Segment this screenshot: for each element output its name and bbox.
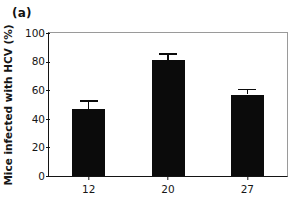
- panel-label: (a): [12, 6, 32, 20]
- x-tick-12: 12: [82, 176, 95, 195]
- y-axis-title-container: Mice infected with HCV (%): [0, 32, 16, 178]
- y-tick-mark: [46, 90, 50, 91]
- x-tick-label: 27: [241, 183, 254, 195]
- figure-panel-a: (a) Mice infected with HCV (%) 020406080…: [0, 0, 298, 204]
- y-tick-mark: [46, 147, 50, 148]
- y-tick-mark: [46, 119, 50, 120]
- y-tick-mark: [46, 62, 50, 63]
- bar-27: [231, 95, 264, 177]
- x-tick-mark: [168, 176, 169, 180]
- x-tick-20: 20: [161, 176, 174, 195]
- bar-20: [152, 60, 185, 176]
- x-tick-label: 20: [161, 183, 174, 195]
- error-bar-cap-27: [238, 89, 256, 91]
- plot-area: 020406080100 122027: [48, 32, 288, 177]
- x-tick-mark: [88, 176, 89, 180]
- x-tick-mark: [247, 176, 248, 180]
- y-tick-mark: [46, 33, 50, 34]
- error-bar-cap-12: [80, 100, 98, 102]
- x-tick-label: 12: [82, 183, 95, 195]
- x-tick-27: 27: [241, 176, 254, 195]
- error-bar-cap-20: [159, 53, 177, 55]
- bar-12: [72, 109, 105, 176]
- y-tick-mark: [46, 176, 50, 177]
- y-axis-title: Mice infected with HCV (%): [2, 24, 14, 185]
